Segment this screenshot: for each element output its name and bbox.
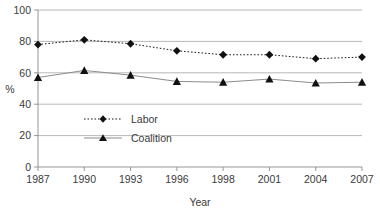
series-labor [34,36,366,63]
data-point-labor-2004 [312,55,320,63]
x-tick-label-1996: 1996 [165,173,189,185]
y-axis-title: % [5,83,14,95]
legend-label-labor: Labor [131,113,158,125]
x-tick-label-1987: 1987 [26,173,50,185]
x-tick-label-2007: 2007 [350,173,374,185]
data-point-coalition-1990 [80,66,88,74]
x-tick-label-1990: 1990 [73,173,97,185]
data-point-labor-2001 [266,51,274,59]
y-tick-label-40: 40 [19,98,31,110]
x-tick-label-2004: 2004 [304,173,328,185]
x-tick-label-1993: 1993 [119,173,143,185]
x-axis-title: Year [189,196,211,208]
series-layer [34,36,366,87]
y-tick-label-20: 20 [19,129,31,141]
data-point-coalition-2001 [265,75,273,83]
legend-label-coalition: Coalition [131,132,172,144]
x-tick-label-2001: 2001 [258,173,282,185]
y-tick-label-100: 100 [13,4,31,16]
data-point-labor-1996 [173,47,181,55]
y-tick-label-0: 0 [25,161,31,173]
y-tick-label-60: 60 [19,67,31,79]
x-axis [38,167,362,171]
chart-canvas: 100 80 60 40 20 0 % 1987 1990 1993 1996 … [0,0,380,213]
y-tick-label-80: 80 [19,35,31,47]
chart-legend: Labor Coalition [84,113,172,144]
data-point-labor-1990 [80,36,88,44]
series-coalition [34,66,366,86]
data-point-labor-2007 [358,53,366,61]
legend-marker-labor [100,115,107,123]
x-tick-labels: 1987 1990 1993 1996 1998 2001 2004 2007 [26,173,374,185]
series-line-labor [38,40,362,59]
y-tick-labels: 100 80 60 40 20 0 [13,4,31,173]
data-point-labor-1998 [219,51,227,59]
line-chart: 100 80 60 40 20 0 % 1987 1990 1993 1996 … [0,0,380,213]
y-axis [34,10,38,167]
x-tick-label-1998: 1998 [211,173,235,185]
